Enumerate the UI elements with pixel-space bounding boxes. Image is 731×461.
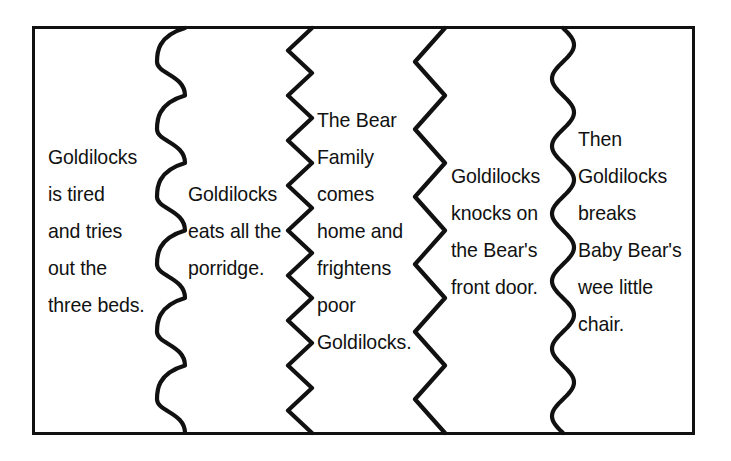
figure-canvas: Goldilocksis tiredand triesout thethree … [0, 0, 731, 461]
panel-text-line: The Bear [317, 101, 414, 138]
panel-text-line: Goldilocks [48, 138, 148, 175]
panel-text-line: eats all the [188, 212, 283, 249]
panel-text-line: Goldilocks. [317, 323, 414, 360]
panel-text-line: front door. [451, 268, 548, 305]
panel-text-line: porridge. [188, 249, 283, 286]
story-panel-4: Goldilocksknocks onthe Bear'sfront door. [451, 26, 555, 435]
panel-text-line: Then [578, 120, 682, 157]
panel-text-line: wee little [578, 268, 682, 305]
panel-text-line: Goldilocks [188, 175, 283, 212]
panel-text-line: the Bear's [451, 231, 548, 268]
panel-text-line: is tired [48, 175, 148, 212]
panel-text-line: home and [317, 212, 414, 249]
panel-text-line: poor [317, 286, 414, 323]
panel-text-line: and tries [48, 212, 148, 249]
panel-text-line: Goldilocks [451, 157, 548, 194]
panel-text-line: three beds. [48, 286, 148, 323]
panel-text-line: frightens [317, 249, 414, 286]
panel-text-line: comes [317, 175, 414, 212]
panel-text-line: Goldilocks [578, 157, 682, 194]
story-panel-1: Goldilocksis tiredand triesout thethree … [48, 26, 156, 435]
panel-text-line: out the [48, 249, 148, 286]
panel-text-line: breaks [578, 194, 682, 231]
story-panel-2: Goldilockseats all theporridge. [188, 26, 290, 435]
panel-text-line: Baby Bear's [578, 231, 682, 268]
panel-text-line: Family [317, 138, 414, 175]
story-panel-5: ThenGoldilocksbreaksBaby Bear'swee littl… [578, 26, 690, 435]
panel-text-line: chair. [578, 305, 682, 342]
panel-text-line: knocks on [451, 194, 548, 231]
story-panel-3: The BearFamilycomeshome andfrightenspoor… [317, 26, 421, 435]
